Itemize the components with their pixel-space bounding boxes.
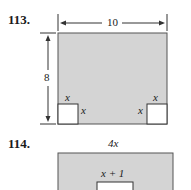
outer-width-label-114: 4x <box>108 137 118 149</box>
problem-number-114: 114. <box>8 136 30 152</box>
problem-number-113: 113. <box>8 12 30 28</box>
right-square-left-label: x <box>138 104 143 116</box>
height-label-113: 8 <box>44 71 50 83</box>
right-square-top-label: x <box>153 91 158 103</box>
width-label-113: 10 <box>107 16 118 28</box>
figures-canvas <box>0 0 191 190</box>
left-square-right-label: x <box>81 104 86 116</box>
figure-113 <box>40 14 167 124</box>
left-square-top-label: x <box>65 91 70 103</box>
inner-width-label-114: x + 1 <box>101 167 124 179</box>
